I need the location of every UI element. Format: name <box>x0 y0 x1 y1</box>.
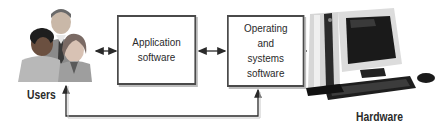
users-label: Users <box>27 88 56 102</box>
os-box-line-3: systems <box>248 51 284 66</box>
users-group-icon <box>14 4 104 82</box>
application-box-line-2: software <box>138 50 175 65</box>
hardware-node <box>304 6 444 104</box>
operating-systems-software-box: Operating and systems software <box>227 15 304 87</box>
os-box-line-4: software <box>247 66 284 81</box>
users-node <box>14 4 104 82</box>
os-box-line-2: and <box>257 36 274 51</box>
os-box-line-1: Operating <box>244 21 287 36</box>
hardware-label: Hardware <box>356 110 403 124</box>
application-box-line-1: Application <box>132 35 180 50</box>
feedback-loop-line <box>66 86 258 116</box>
desktop-computer-icon <box>304 6 444 104</box>
application-software-box: Application software <box>117 15 196 85</box>
